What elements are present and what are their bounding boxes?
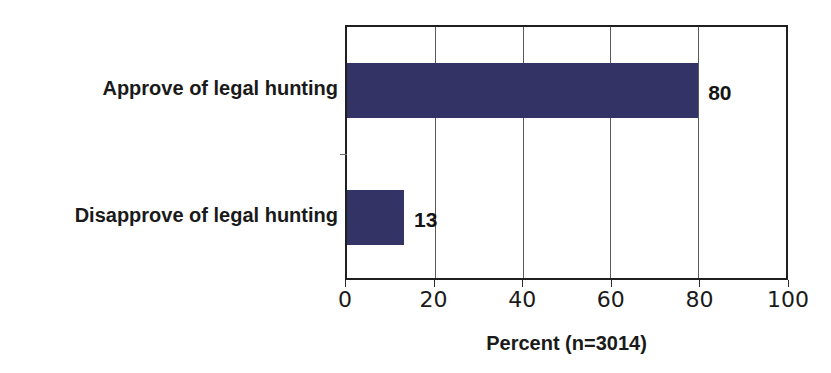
x-tick-label-40: 40 (508, 289, 536, 311)
x-axis-title: Percent (n=3014) (345, 333, 788, 353)
x-tick-40 (522, 280, 523, 287)
category-axis-mid-tick (340, 154, 347, 155)
x-tick-80 (699, 280, 700, 287)
value-label-approve: 80 (708, 82, 731, 103)
category-axis-labels: Approve of legal hunting Disapprove of l… (0, 0, 338, 373)
bar-approve (347, 63, 698, 118)
bar-disapprove (347, 190, 404, 245)
x-tick-100 (788, 280, 789, 287)
category-label-approve: Approve of legal hunting (102, 78, 338, 98)
plot-inner: 80 13 (347, 27, 786, 278)
plot-area: 80 13 (345, 25, 788, 280)
x-tick-label-100: 100 (767, 289, 809, 311)
x-tick-label-80: 80 (685, 289, 713, 311)
value-label-disapprove: 13 (414, 209, 437, 230)
x-tick-label-60: 60 (597, 289, 625, 311)
x-tick-0 (345, 280, 346, 287)
gridline-80 (698, 27, 699, 278)
x-tick-label-0: 0 (338, 289, 352, 311)
x-tick-60 (611, 280, 612, 287)
bar-chart: Approve of legal hunting Disapprove of l… (0, 0, 831, 373)
x-tick-20 (434, 280, 435, 287)
x-axis: 0 20 40 60 80 100 (345, 280, 788, 320)
category-label-disapprove: Disapprove of legal hunting (75, 205, 338, 225)
x-tick-label-20: 20 (420, 289, 448, 311)
